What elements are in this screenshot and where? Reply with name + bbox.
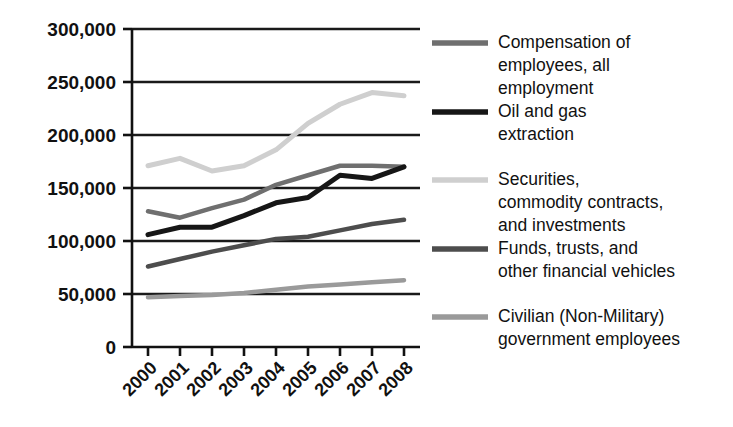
y-axis-tick-label: 300,000	[47, 19, 116, 40]
y-axis-tick-label: 250,000	[47, 72, 116, 93]
x-axis-tick-label: 2000	[118, 358, 160, 400]
series-line	[148, 93, 404, 171]
x-axis-tick-label: 2006	[310, 358, 352, 400]
y-axis-tick-label: 200,000	[47, 125, 116, 146]
legend-entry-label: Securities,	[498, 169, 580, 189]
series-line	[148, 166, 404, 218]
data-series-group	[148, 93, 404, 298]
x-axis-tick-label: 2003	[214, 358, 256, 400]
y-axis-tick-label: 150,000	[47, 178, 116, 199]
legend-entry-label: Compensation of	[498, 32, 630, 52]
y-axis-tick-label: 50,000	[58, 284, 116, 305]
legend-entry-label: employment	[498, 78, 593, 98]
y-tick-labels-group: 050,000100,000150,000200,000250,000300,0…	[47, 19, 116, 358]
legend-entry-label: Oil and gas	[498, 101, 587, 121]
x-axis-tick-label: 2005	[278, 358, 320, 400]
legend-entry-label: commodity contracts,	[498, 192, 663, 212]
legend-entry-label: other financial vehicles	[498, 261, 675, 281]
legend-entry-label: and investments	[498, 215, 626, 235]
legend-entry-label: extraction	[498, 124, 574, 144]
y-axis-tick-label: 0	[105, 337, 116, 358]
x-axis-tick-label: 2008	[374, 358, 416, 400]
chart-canvas: 050,000100,000150,000200,000250,000300,0…	[0, 0, 733, 427]
x-tick-labels-group: 200020012002200320042005200620072008	[118, 358, 416, 400]
legend-entry-label: government employees	[498, 329, 680, 349]
legend-entry-label: Civilian (Non-Military)	[498, 306, 664, 326]
y-axis-tick-label: 100,000	[47, 231, 116, 252]
x-axis-tick-label: 2002	[182, 358, 224, 400]
x-axis-tick-label: 2001	[150, 358, 192, 400]
x-axis-tick-label: 2007	[342, 358, 384, 400]
legend-entry-label: employees, all	[498, 55, 610, 75]
line-chart-figure: 050,000100,000150,000200,000250,000300,0…	[0, 0, 733, 427]
x-axis-line-group	[132, 347, 420, 356]
y-axis-line-group	[123, 29, 132, 347]
x-axis-tick-label: 2004	[246, 358, 288, 400]
legend-entry-label: Funds, trusts, and	[498, 238, 638, 258]
legend-group: Compensation ofemployees, allemploymentO…	[432, 32, 680, 349]
